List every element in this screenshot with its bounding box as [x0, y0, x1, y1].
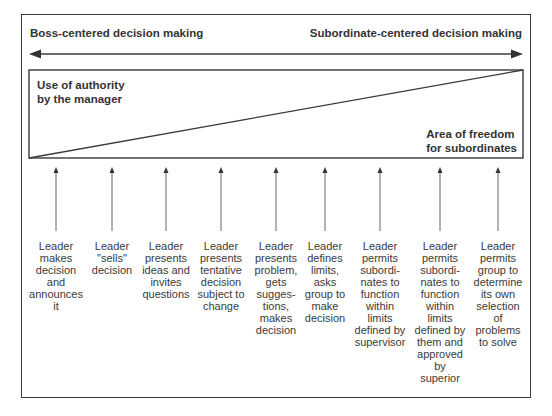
behavior-description: Leadermakesdecisionandannouncesit — [26, 240, 86, 312]
behavior-description: Leaderpermitsgroup todetermineits ownsel… — [468, 240, 528, 348]
behavior-description: Leaderpermitssubordi-nates tofunctionwit… — [410, 240, 470, 384]
up-arrow-icon — [323, 167, 328, 231]
up-arrow-icon — [110, 167, 115, 231]
behavior-description: Leader"sells"decision — [82, 240, 142, 276]
up-arrow-icon — [54, 167, 59, 231]
behavior-description: Leaderpresentstentativedecisionsubject t… — [191, 240, 251, 312]
up-arrow-icon — [438, 167, 443, 231]
behavior-arrows — [54, 167, 501, 231]
behavior-description: Leaderpermitssubordi-nates tofunctionwit… — [350, 240, 410, 348]
up-arrow-icon — [496, 167, 501, 231]
freedom-label: Area of freedom for subordinates — [426, 127, 517, 155]
authority-label: Use of authority by the manager — [37, 78, 125, 106]
up-arrow-icon — [378, 167, 383, 231]
up-arrow-icon — [219, 167, 224, 231]
behavior-description: Leaderpresentsideas andinvitesquestions — [136, 240, 196, 300]
arrow-left-icon — [29, 50, 41, 59]
up-arrow-icon — [274, 167, 279, 231]
double-arrow — [29, 50, 523, 59]
up-arrow-icon — [164, 167, 169, 231]
arrow-right-icon — [511, 50, 523, 59]
behavior-description: Leaderdefineslimits,asksgroup tomakedeci… — [295, 240, 355, 324]
